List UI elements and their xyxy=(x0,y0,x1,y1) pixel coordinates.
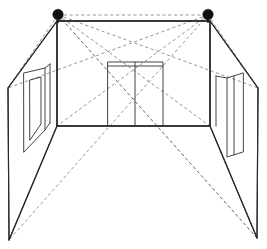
sensor-right-dot-icon[interactable] xyxy=(203,9,213,19)
sensor-left-dot-icon[interactable] xyxy=(53,9,63,19)
room-perspective-diagram xyxy=(0,0,267,249)
room-diagram-canvas xyxy=(0,0,267,249)
